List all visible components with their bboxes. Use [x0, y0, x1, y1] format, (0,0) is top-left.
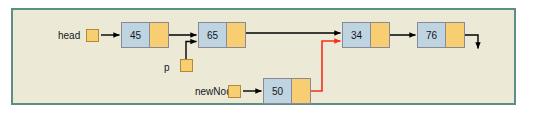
- p-pointer-box: [180, 59, 193, 72]
- connector-layer: [0, 0, 533, 123]
- node-45: 45: [121, 22, 169, 48]
- node-50: 50: [263, 78, 311, 104]
- node-50-next-cell: [292, 79, 310, 103]
- linked-list-diagram: head 45 65 p 34 76 newNode 50: [0, 0, 533, 123]
- node-76-value: 76: [418, 23, 446, 47]
- newnode-pointer-box: [228, 85, 241, 98]
- node-50-value: 50: [264, 79, 292, 103]
- node-45-next-cell: [150, 23, 168, 47]
- node-34-value: 34: [343, 23, 371, 47]
- head-pointer-box: [86, 29, 99, 42]
- link-p-to-node65: [186, 42, 197, 60]
- head-label: head: [58, 31, 80, 41]
- node-65-value: 65: [199, 23, 227, 47]
- node-65: 65: [198, 22, 246, 48]
- node-45-value: 45: [122, 23, 150, 47]
- p-label: p: [164, 63, 170, 73]
- node-65-next-cell: [227, 23, 245, 47]
- node-34-next-cell: [371, 23, 389, 47]
- node-76-next-cell: [446, 23, 464, 47]
- node-76: 76: [417, 22, 465, 48]
- node-34: 34: [342, 22, 390, 48]
